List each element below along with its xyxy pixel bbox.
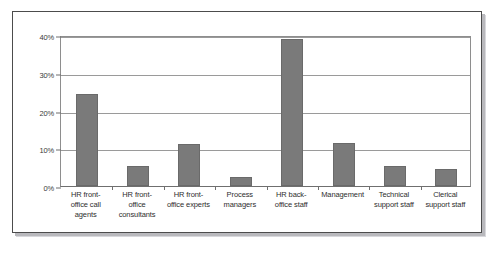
x-axis-label-line: office bbox=[111, 200, 162, 210]
x-axis-label-line: HR front- bbox=[111, 190, 162, 200]
x-axis-category-label: Processmanagers bbox=[214, 190, 265, 210]
x-axis-category-label: HR front-office callagents bbox=[60, 190, 111, 220]
x-axis-label-line: HR front- bbox=[60, 190, 111, 200]
figure-frame: 0%10%20%30%40% HR front-office callagent… bbox=[12, 11, 482, 233]
bar[interactable] bbox=[333, 143, 355, 186]
x-axis-category-label: HR front-officeconsultants bbox=[111, 190, 162, 220]
x-axis-label-line: agents bbox=[60, 210, 111, 220]
bar-slot bbox=[267, 37, 318, 186]
bar[interactable] bbox=[281, 39, 303, 186]
x-axis-label-line: Technical bbox=[368, 190, 419, 200]
bar-slot bbox=[164, 37, 215, 186]
bar[interactable] bbox=[384, 166, 406, 186]
x-axis-label-line: Process bbox=[214, 190, 265, 200]
x-axis-label-line: HR front- bbox=[163, 190, 214, 200]
bar-slot bbox=[421, 37, 472, 186]
x-axis-label-line: office staff bbox=[266, 200, 317, 210]
bar-slot bbox=[61, 37, 112, 186]
plot-area: 0%10%20%30%40% bbox=[60, 36, 471, 187]
x-axis-category-label: Clericalsupport staff bbox=[420, 190, 471, 210]
bar-slot bbox=[318, 37, 369, 186]
x-axis-label-line: office call bbox=[60, 200, 111, 210]
x-axis-label-line: support staff bbox=[420, 200, 471, 210]
bar[interactable] bbox=[230, 177, 252, 186]
x-axis-category-label: HR front-office experts bbox=[163, 190, 214, 210]
x-axis-label-line: office experts bbox=[163, 200, 214, 210]
bar[interactable] bbox=[76, 94, 98, 186]
bar[interactable] bbox=[178, 144, 200, 186]
x-axis-labels: HR front-office callagentsHR front-offic… bbox=[60, 190, 471, 232]
bars-layer bbox=[61, 37, 470, 186]
bar[interactable] bbox=[127, 166, 149, 186]
y-axis-tick-mark bbox=[56, 188, 61, 189]
bar-slot bbox=[215, 37, 266, 186]
x-axis-category-label: Technicalsupport staff bbox=[368, 190, 419, 210]
x-axis-category-label: HR back-office staff bbox=[266, 190, 317, 210]
x-axis-label-line: support staff bbox=[368, 200, 419, 210]
bar-slot bbox=[369, 37, 420, 186]
x-axis-label-line: Clerical bbox=[420, 190, 471, 200]
x-axis-category-label: Management bbox=[317, 190, 368, 200]
x-axis-label-line: Management bbox=[317, 190, 368, 200]
x-axis-label-line: consultants bbox=[111, 210, 162, 220]
x-axis-label-line: HR back- bbox=[266, 190, 317, 200]
x-axis-label-line: managers bbox=[214, 200, 265, 210]
bar[interactable] bbox=[435, 169, 457, 186]
bar-chart: 0%10%20%30%40% HR front-office callagent… bbox=[13, 12, 483, 234]
bar-slot bbox=[112, 37, 163, 186]
